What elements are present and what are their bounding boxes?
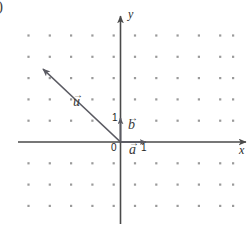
vector-u-arrow xyxy=(43,69,121,142)
vector-a-label: → a xyxy=(129,143,136,157)
vector-u-label: → u xyxy=(73,95,80,109)
x-axis-tick-1-label: 1 xyxy=(141,143,147,153)
vector-b-label: → b xyxy=(128,118,135,132)
x-axis-label: x xyxy=(239,144,244,156)
origin-label: 0 xyxy=(111,143,117,153)
coordinate-plane-canvas xyxy=(0,0,252,237)
vector-b-overline-arrow-icon: → xyxy=(128,113,138,123)
vector-diagram-figure: ) xyxy=(0,0,252,237)
y-axis-label: y xyxy=(128,8,133,20)
vector-u-overline-arrow-icon: → xyxy=(73,90,83,100)
vector-a-overline-arrow-icon: → xyxy=(129,138,139,148)
y-axis-tick-1-label: 1 xyxy=(112,113,118,123)
